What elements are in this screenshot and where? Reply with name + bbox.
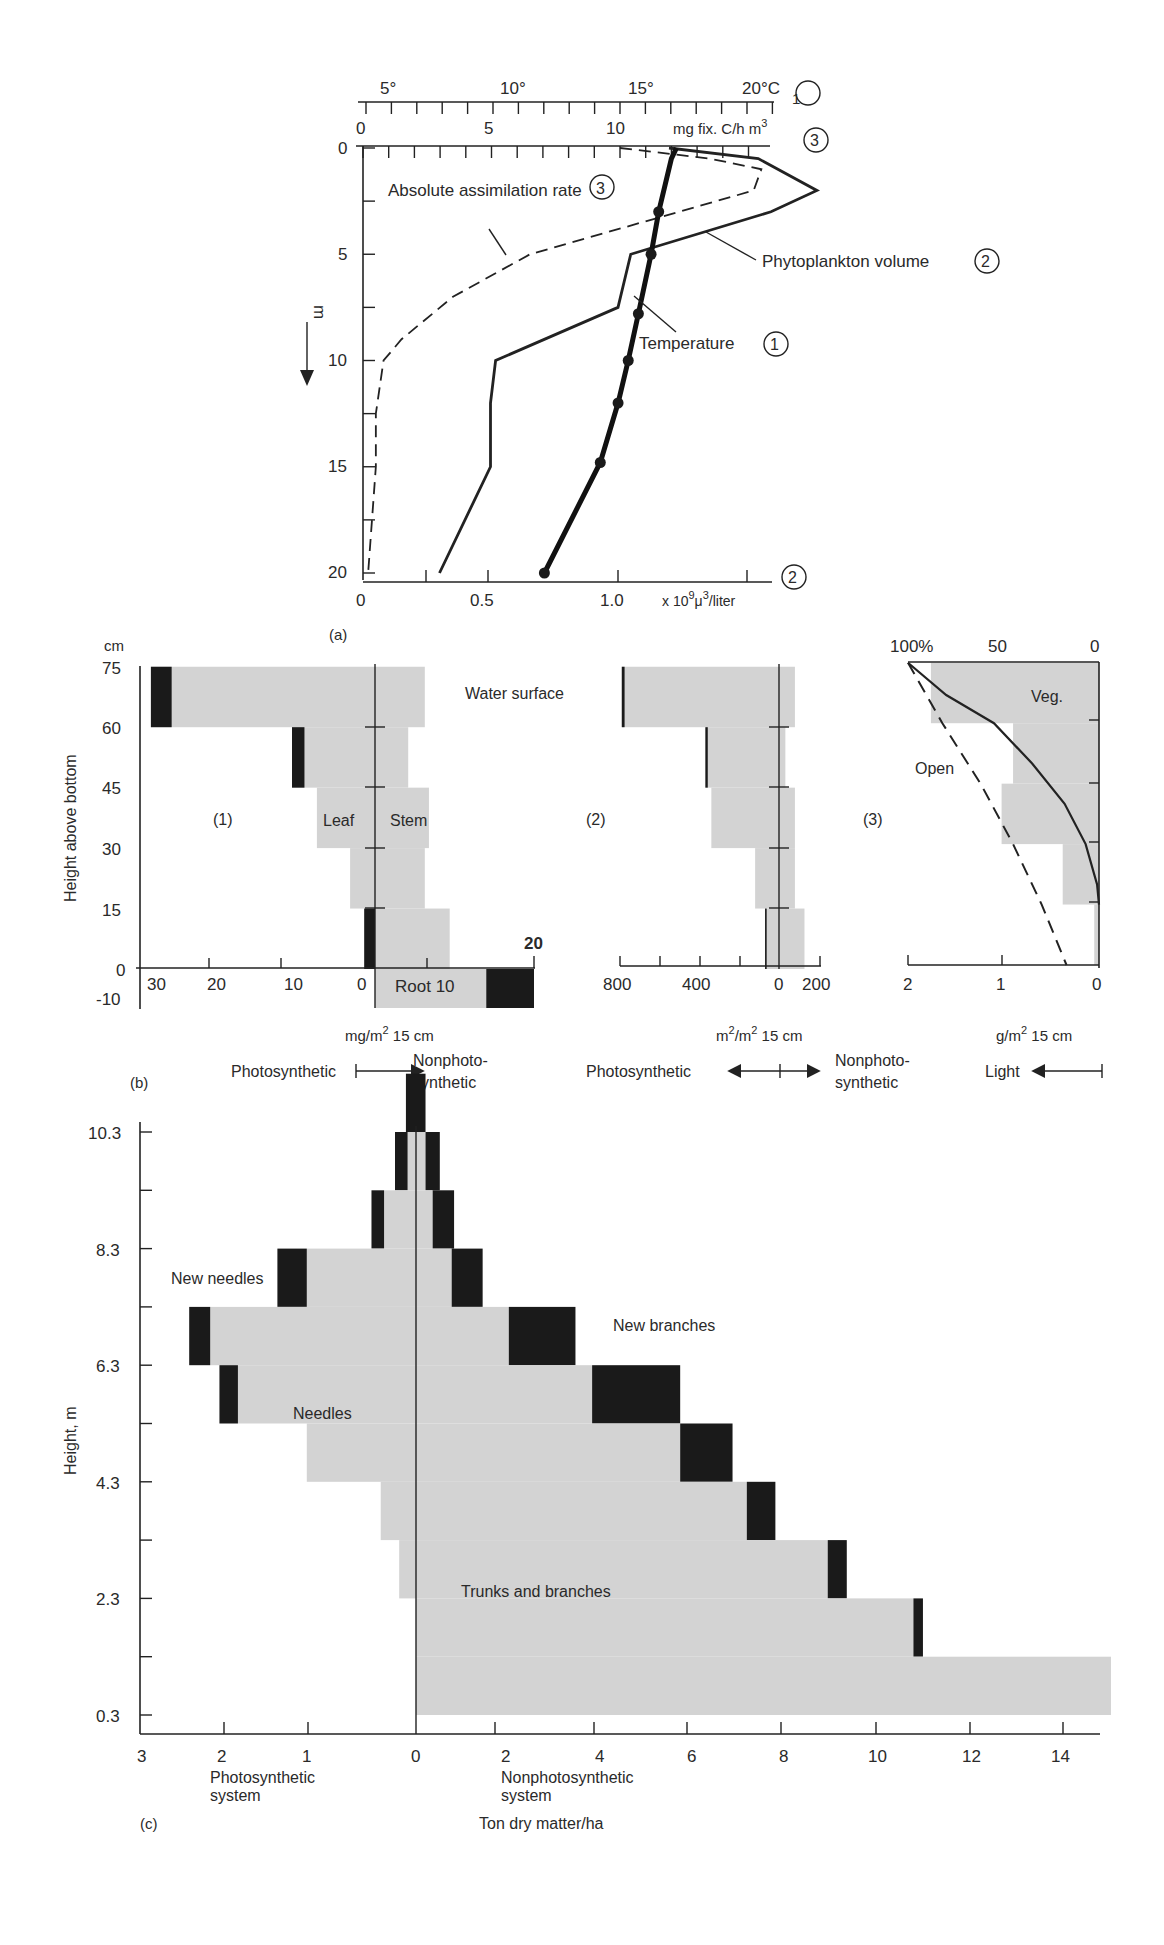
- tick-label: 30: [147, 975, 166, 994]
- new-branches-bar: [433, 1190, 454, 1248]
- marker-1: 1: [770, 336, 779, 353]
- tick-label: 2: [217, 1747, 226, 1766]
- tick-label: 0: [1090, 637, 1099, 656]
- tick-label: 6: [687, 1747, 696, 1766]
- figure: 5° 10° 15° 20°C 1 0 5 10 mg fix. C/h m3 …: [0, 0, 1164, 1945]
- b3-x-unit: g/m2 15 cm: [996, 1024, 1072, 1044]
- stem-bar: [375, 727, 408, 787]
- nonphotosynthetic-system-label: Nonphotosynthetic: [501, 1769, 634, 1786]
- stem-bar: [375, 848, 425, 908]
- root-new-bar: [486, 969, 534, 1008]
- tick-label: 1: [302, 1747, 311, 1766]
- tick-label: 8.3: [96, 1241, 120, 1260]
- label-assimilation: Absolute assimilation rate: [388, 181, 582, 200]
- tick-label: 75: [102, 659, 121, 678]
- water-surface-label: Water surface: [465, 685, 564, 702]
- y-unit: cm: [104, 637, 124, 654]
- tick-label: 0: [1092, 975, 1101, 994]
- y-axis-label: Height, m: [62, 1407, 79, 1475]
- temperature-point: [539, 568, 550, 579]
- temperature-point: [633, 308, 644, 319]
- new-needles-label: New needles: [171, 1270, 264, 1287]
- new-branches-bar: [416, 1074, 426, 1132]
- tick-label: 4.3: [96, 1474, 120, 1493]
- leader-line: [489, 229, 506, 255]
- tick-label: 0: [411, 1747, 420, 1766]
- tick-label: 5°: [380, 79, 396, 98]
- tick-label: 2: [903, 975, 912, 994]
- tick-label: 12: [962, 1747, 981, 1766]
- panel-b1-bars: [151, 667, 534, 1008]
- nonphotosynthetic-system-label: system: [501, 1787, 552, 1804]
- vegetation-bar: [1002, 784, 1099, 844]
- panel-b: cm Height above bottom 75 60 45 30 15 0 …: [62, 637, 1102, 1091]
- tick-label: 15°: [628, 79, 654, 98]
- leader-line: [706, 232, 756, 260]
- tick-label: 0.3: [96, 1707, 120, 1726]
- tick-label: -10: [96, 990, 121, 1009]
- biomass-bar: [416, 1657, 1111, 1715]
- tick-label: 0: [356, 591, 365, 610]
- new-needles-bar: [277, 1249, 306, 1307]
- new-needles-bar: [189, 1307, 210, 1365]
- nonphotosynthetic-label: synthetic: [835, 1074, 898, 1091]
- tick-label: 8: [779, 1747, 788, 1766]
- tick-label: 10: [328, 351, 347, 370]
- biomass-bar: [416, 1598, 913, 1656]
- tick-label: 100%: [890, 637, 933, 656]
- stem-label: Stem: [390, 812, 427, 829]
- biomass-bar: [384, 1190, 433, 1248]
- subpanel-label-1: (1): [213, 811, 233, 828]
- temperature-point: [595, 457, 606, 468]
- stem-bar: [375, 909, 450, 969]
- x-axis-label: Ton dry matter/ha: [479, 1815, 604, 1832]
- tick-label: 10°: [500, 79, 526, 98]
- tick-label: 10: [868, 1747, 887, 1766]
- panel-c-bars: [189, 1074, 1111, 1715]
- photo-bar: [765, 909, 804, 969]
- tick-label: 0: [357, 975, 366, 994]
- photo-bar: [711, 788, 795, 848]
- tick-label: 5: [338, 245, 347, 264]
- tick-label: 50: [988, 637, 1007, 656]
- biomass-bar: [381, 1482, 747, 1540]
- marker-2: 2: [981, 253, 990, 270]
- subpanel-label-2: (2): [586, 811, 606, 828]
- temperature-point: [623, 355, 634, 366]
- panel-label-a: (a): [329, 626, 347, 643]
- tick-label: 0: [356, 119, 365, 138]
- tick-label: 0: [116, 961, 125, 980]
- temperature-point: [613, 398, 624, 409]
- photo-new-bar: [705, 727, 707, 787]
- tick-label: 2: [501, 1747, 510, 1766]
- temperature-point: [653, 206, 664, 217]
- needles-label: Needles: [293, 1405, 352, 1422]
- panel-label-c: (c): [140, 1815, 158, 1832]
- panel-label-b: (b): [130, 1074, 148, 1091]
- tick-label: 14: [1051, 1747, 1070, 1766]
- vegetation-bar: [1013, 723, 1099, 783]
- assimilation-rate-line: [368, 148, 761, 573]
- biomass-bar: [210, 1307, 509, 1365]
- new-branches-label: New branches: [613, 1317, 715, 1334]
- nonphotosynthetic-label: Nonphoto-: [835, 1052, 910, 1069]
- new-branches-bar: [913, 1598, 923, 1656]
- down-arrow-head-icon: [300, 370, 314, 386]
- new-branches-bar: [828, 1540, 847, 1598]
- temperature-points: [539, 206, 664, 578]
- marker-2: 2: [788, 569, 797, 586]
- new-branches-bar: [592, 1365, 680, 1423]
- photosynthetic-system-label: Photosynthetic: [210, 1769, 315, 1786]
- biomass-bar: [307, 1424, 680, 1482]
- biomass-bar: [307, 1249, 452, 1307]
- mg-unit: mg fix. C/h m3: [673, 117, 767, 137]
- tick-label: 6.3: [96, 1357, 120, 1376]
- b2-x-unit: m2/m2 15 cm: [716, 1024, 802, 1044]
- tick-label: 10.3: [88, 1124, 121, 1143]
- photo-bar: [755, 848, 795, 908]
- vegetation-bar: [931, 663, 1099, 723]
- open-label: Open: [915, 760, 954, 777]
- photo-bar: [705, 727, 785, 787]
- tick-label: 20°C: [742, 79, 780, 98]
- photo-bar: [622, 667, 795, 727]
